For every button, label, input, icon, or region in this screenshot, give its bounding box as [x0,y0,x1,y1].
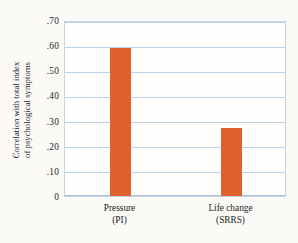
y-axis-tick-label: .20 [36,142,59,152]
gridline [65,122,285,123]
y-axis-tick-label: 0 [36,192,59,202]
y-axis-tick-label: .60 [36,41,59,51]
y-axis-tick-labels: .70.60.50.40.30.20.100 [36,0,59,243]
y-axis-tick-label: .30 [36,117,59,127]
gridline [65,147,285,148]
x-axis-baseline [65,195,285,196]
x-axis-tick-label-line-2: (PI) [65,215,175,227]
y-axis-tick-label: .10 [36,167,59,177]
bar [221,128,242,196]
y-axis-title: Correlation with total index of psycholo… [6,20,36,200]
x-axis-tick-label-line-1: Life change [176,203,286,215]
plot-area [64,21,286,197]
x-axis-tick-label-line-1: Pressure [65,203,175,215]
x-axis-tick-label: Life change(SRRS) [176,203,286,226]
y-axis-tick-label: .70 [36,16,59,26]
gridline [65,47,285,48]
x-axis-tick-label: Pressure(PI) [65,203,175,226]
y-axis-tick-label: .40 [36,91,59,101]
gridline [65,172,285,173]
bar [110,48,131,196]
x-axis-tick-label-line-2: (SRRS) [176,215,286,227]
bar-chart-figure: Correlation with total index of psycholo… [0,0,298,243]
gridline [65,72,285,73]
gridline [65,97,285,98]
y-axis-tick-label: .50 [36,66,59,76]
gridline [65,22,285,23]
y-axis-title-line-2: of psychological symptoms [21,62,32,159]
y-axis-title-line-1: Correlation with total index [11,62,22,159]
